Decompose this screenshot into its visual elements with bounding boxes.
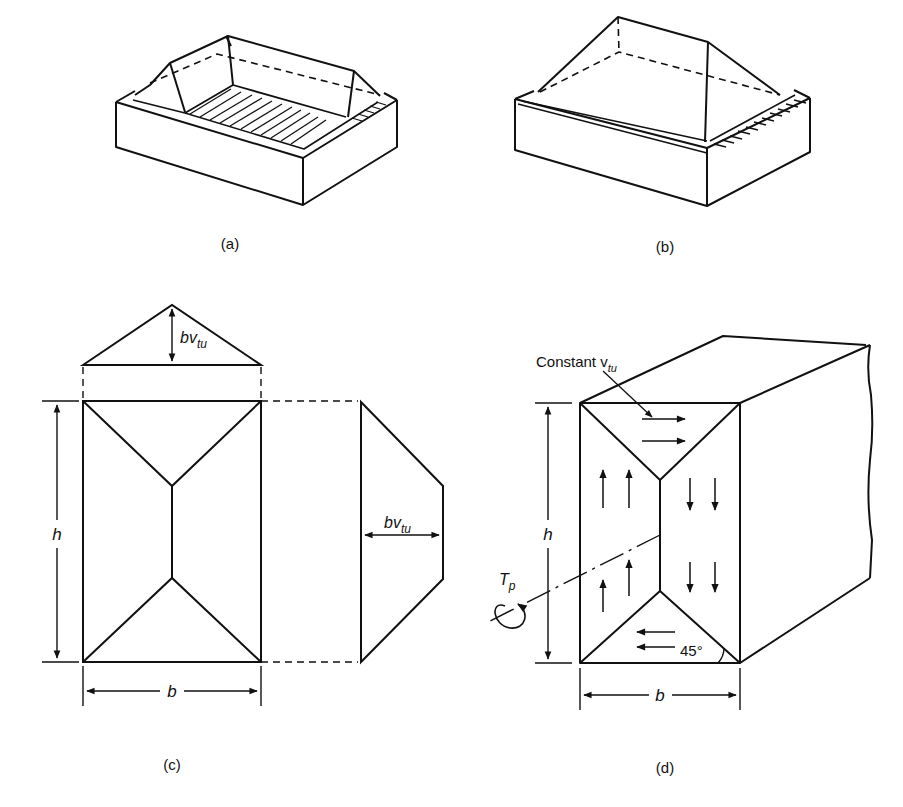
caption-d: (d) [656, 759, 674, 776]
panel-a [116, 36, 397, 205]
label-torque-tp: Tp [499, 571, 516, 593]
label-bvtu-top: bvtu [180, 329, 207, 351]
label-b-d: b [655, 686, 664, 705]
roof-b [538, 17, 780, 95]
label-bvtu-side: bvtu [384, 514, 411, 536]
label-b-c: b [167, 682, 176, 701]
label-45-degrees: 45° [680, 642, 703, 659]
label-h-d: h [543, 525, 552, 544]
panel-b [515, 17, 810, 206]
sand-heap-torsion-figure: (a) (b) bvtu bvtu h b (c) [0, 0, 903, 807]
panel-c [42, 305, 443, 706]
caption-c: (c) [163, 756, 181, 773]
label-h-c: h [52, 525, 61, 544]
caption-b: (b) [656, 238, 674, 255]
label-constant-vtu: Constant vtu [536, 353, 617, 374]
box-a-outline [116, 100, 397, 205]
caption-a: (a) [221, 235, 239, 252]
